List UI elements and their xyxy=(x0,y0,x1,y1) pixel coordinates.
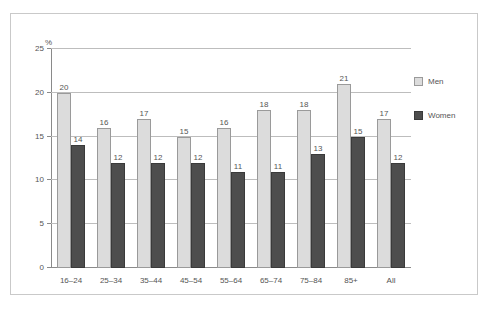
bar-value-label: 13 xyxy=(314,144,323,153)
bar-group: 181375–84 xyxy=(297,49,325,268)
bar-value-label: 16 xyxy=(220,118,229,127)
y-tick-mark xyxy=(47,223,51,224)
legend-item-men[interactable]: Men xyxy=(414,77,455,86)
bar-value-label: 11 xyxy=(234,162,242,171)
bar-value-label: 18 xyxy=(260,100,269,109)
y-tick-label: 15 xyxy=(35,131,44,140)
bar-value-label: 12 xyxy=(194,153,203,162)
bar-group: 1712All xyxy=(377,49,405,268)
legend-swatch-icon xyxy=(414,111,423,120)
bar-group: 161155–64 xyxy=(217,49,245,268)
bar-men[interactable]: 17 xyxy=(137,119,151,268)
bar-value-label: 14 xyxy=(74,135,83,144)
y-tick-mark xyxy=(47,92,51,93)
bar-group: 211585+ xyxy=(337,49,365,268)
bar-women[interactable]: 12 xyxy=(111,163,125,268)
bar-value-label: 16 xyxy=(100,118,109,127)
y-tick-label: 0 xyxy=(40,263,44,272)
bar-group: 161225–34 xyxy=(97,49,125,268)
bar-value-label: 15 xyxy=(354,127,363,136)
x-tick-label: All xyxy=(387,276,396,285)
bar-value-label: 15 xyxy=(180,127,189,136)
bar-value-label: 18 xyxy=(300,100,309,109)
bar-men[interactable]: 18 xyxy=(297,110,311,268)
bar-value-label: 11 xyxy=(274,162,282,171)
bar-group: 181165–74 xyxy=(257,49,285,268)
bar-value-label: 12 xyxy=(154,153,163,162)
bar-men[interactable]: 16 xyxy=(217,128,231,268)
bar-men[interactable]: 21 xyxy=(337,84,351,268)
y-tick-mark xyxy=(47,267,51,268)
bar-women[interactable]: 12 xyxy=(391,163,405,268)
bar-women[interactable]: 15 xyxy=(351,137,365,268)
legend-swatch-icon xyxy=(414,77,423,86)
x-tick-label: 85+ xyxy=(344,276,358,285)
y-tick-mark xyxy=(47,136,51,137)
bar-value-label: 20 xyxy=(60,83,69,92)
x-tick-label: 55–64 xyxy=(220,276,242,285)
chart-legend: MenWomen xyxy=(414,77,455,145)
bar-women[interactable]: 12 xyxy=(191,163,205,268)
bar-men[interactable]: 16 xyxy=(97,128,111,268)
y-tick-label: 20 xyxy=(35,87,44,96)
x-tick-label: 25–34 xyxy=(100,276,122,285)
x-tick-label: 65–74 xyxy=(260,276,282,285)
x-tick-label: 45–54 xyxy=(180,276,202,285)
y-axis-line xyxy=(51,49,52,268)
bar-men[interactable]: 18 xyxy=(257,110,271,268)
bar-value-label: 17 xyxy=(380,109,389,118)
bar-men[interactable]: 17 xyxy=(377,119,391,268)
y-axis-title: % xyxy=(45,38,52,47)
chart-figure: % 0510152025 201416–24161225–34171235–44… xyxy=(10,13,478,295)
y-tick-label: 25 xyxy=(35,44,44,53)
bar-women[interactable]: 11 xyxy=(231,172,245,268)
x-tick-label: 16–24 xyxy=(60,276,82,285)
legend-label: Men xyxy=(428,77,444,86)
y-tick-mark xyxy=(47,48,51,49)
bar-women[interactable]: 11 xyxy=(271,172,285,268)
bar-women[interactable]: 12 xyxy=(151,163,165,268)
bar-value-label: 12 xyxy=(114,153,123,162)
y-tick-label: 10 xyxy=(35,175,44,184)
bar-value-label: 17 xyxy=(140,109,149,118)
bar-group: 151245–54 xyxy=(177,49,205,268)
x-tick-label: 35–44 xyxy=(140,276,162,285)
legend-label: Women xyxy=(428,111,455,120)
legend-item-women[interactable]: Women xyxy=(414,111,455,120)
bar-women[interactable]: 13 xyxy=(311,154,325,268)
bar-women[interactable]: 14 xyxy=(71,145,85,268)
y-tick-mark xyxy=(47,179,51,180)
x-tick-label: 75–84 xyxy=(300,276,322,285)
bar-men[interactable]: 15 xyxy=(177,137,191,268)
bar-value-label: 21 xyxy=(340,74,349,83)
bar-group: 171235–44 xyxy=(137,49,165,268)
bar-value-label: 12 xyxy=(394,153,403,162)
y-tick-label: 5 xyxy=(40,219,44,228)
bar-group: 201416–24 xyxy=(57,49,85,268)
plot-area: 0510152025 201416–24161225–34171235–4415… xyxy=(51,49,411,268)
bar-men[interactable]: 20 xyxy=(57,93,71,268)
